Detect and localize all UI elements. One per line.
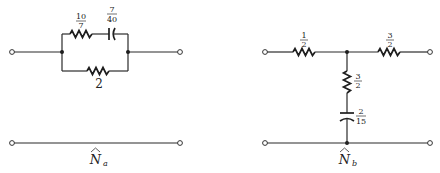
svg-text:10: 10: [76, 12, 86, 21]
nb-terminal-bottom-left: [263, 141, 268, 146]
na-junction-left: [60, 50, 64, 54]
svg-text:2: 2: [355, 81, 360, 90]
na-network-label: N a: [89, 148, 108, 168]
na-resistor-2-label: 2: [95, 77, 103, 91]
nb-resistor-3-2-series-label: 3 2: [386, 31, 394, 49]
nb-resistor-3-2-shunt-icon: [344, 71, 351, 93]
nb-junction-top: [345, 50, 349, 54]
nb-resistor-3-2-series-icon: [378, 49, 400, 56]
network-nb: 1 2 3 2 3 2 2 15: [263, 31, 433, 168]
svg-text:a: a: [103, 159, 108, 168]
na-resistor-10-7-label: 10 7: [76, 12, 86, 30]
na-terminal-bottom-right: [178, 141, 183, 146]
na-terminal-top-right: [178, 50, 183, 55]
svg-text:2: 2: [358, 107, 363, 116]
svg-text:7: 7: [78, 21, 83, 30]
svg-text:b: b: [352, 159, 357, 168]
na-terminal-bottom-left: [10, 141, 15, 146]
na-resistor-2-icon: [87, 68, 109, 75]
nb-resistor-1-2-label: 1 2: [300, 31, 308, 49]
svg-text:N: N: [338, 152, 351, 167]
svg-text:15: 15: [356, 117, 366, 126]
svg-text:N: N: [89, 152, 102, 167]
nb-resistor-3-2-shunt-label: 3 2: [354, 72, 362, 90]
svg-text:3: 3: [355, 72, 360, 81]
na-capacitor-7-40-label: 7 40: [107, 5, 117, 24]
circuit-diagram: 10 7 7 40 2 N a: [0, 0, 440, 173]
na-junction-right: [126, 50, 130, 54]
svg-text:2: 2: [387, 40, 392, 49]
na-terminal-top-left: [10, 50, 15, 55]
svg-text:1: 1: [301, 31, 306, 40]
nb-resistor-1-2-icon: [293, 49, 315, 56]
nb-terminal-bottom-right: [428, 141, 433, 146]
svg-text:2: 2: [301, 40, 306, 49]
svg-text:7: 7: [109, 5, 114, 14]
network-na: 10 7 7 40 2 N a: [10, 5, 183, 168]
nb-capacitor-2-15-label: 2 15: [356, 107, 366, 126]
nb-network-label: N b: [338, 148, 357, 168]
na-resistor-10-7-icon: [70, 31, 92, 38]
nb-terminal-top-right: [428, 50, 433, 55]
svg-text:40: 40: [107, 15, 117, 24]
svg-text:3: 3: [387, 31, 392, 40]
nb-terminal-top-left: [263, 50, 268, 55]
